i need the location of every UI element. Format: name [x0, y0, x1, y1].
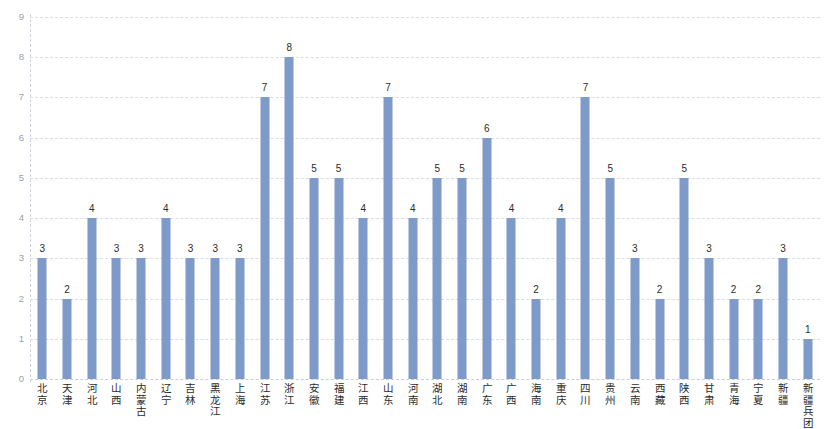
bar[interactable] — [803, 339, 812, 379]
bar-slot: 4 — [499, 17, 524, 379]
bar[interactable] — [433, 178, 442, 379]
y-tick-label-6: 6 — [0, 133, 24, 143]
x-label: 吉林 — [182, 383, 198, 406]
bar-slot: 2 — [721, 17, 746, 379]
y-tick-label-2: 2 — [0, 294, 24, 304]
bar[interactable] — [532, 299, 541, 379]
bar-slot: 5 — [425, 17, 450, 379]
bar-value-label: 3 — [237, 244, 243, 254]
x-label: 湖北 — [429, 383, 445, 406]
x-label: 四川 — [577, 383, 593, 406]
bar[interactable] — [729, 299, 738, 379]
bar-value-label: 2 — [756, 285, 762, 295]
y-tick-label-3: 3 — [0, 254, 24, 264]
bar-value-label: 4 — [89, 204, 95, 214]
bar[interactable] — [680, 178, 689, 379]
bar[interactable] — [606, 178, 615, 379]
bar[interactable] — [161, 218, 170, 379]
bar-value-label: 2 — [657, 285, 663, 295]
bar-slot: 2 — [524, 17, 549, 379]
bar-slot: 3 — [623, 17, 648, 379]
x-label: 西藏 — [652, 383, 668, 406]
bar-value-label: 3 — [632, 244, 638, 254]
bar-slot: 3 — [697, 17, 722, 379]
bar[interactable] — [137, 258, 146, 379]
bar-value-label: 7 — [385, 83, 391, 93]
bar[interactable] — [211, 258, 220, 379]
bar[interactable] — [408, 218, 417, 379]
x-label: 宁夏 — [750, 383, 766, 406]
bar-slot: 4 — [548, 17, 573, 379]
x-label: 甘肃 — [701, 383, 717, 406]
x-label: 广西 — [503, 383, 519, 406]
bar-slot: 3 — [104, 17, 129, 379]
bar-value-label: 5 — [681, 164, 687, 174]
bar-value-label: 1 — [805, 325, 811, 335]
bar-slot: 4 — [351, 17, 376, 379]
x-label: 内蒙古 — [133, 383, 149, 418]
bar-value-label: 3 — [40, 244, 46, 254]
bar-value-label: 4 — [509, 204, 515, 214]
y-tick-label-8: 8 — [0, 52, 24, 62]
bar-value-label: 5 — [459, 164, 465, 174]
bar[interactable] — [482, 138, 491, 379]
bar-slot: 5 — [302, 17, 327, 379]
bar-value-label: 3 — [114, 244, 120, 254]
bar-value-label: 3 — [212, 244, 218, 254]
bar[interactable] — [235, 258, 244, 379]
bar-value-label: 7 — [583, 83, 589, 93]
bar[interactable] — [630, 258, 639, 379]
x-label: 新疆兵团 — [800, 383, 816, 429]
y-tick-label-1: 1 — [0, 334, 24, 344]
x-label: 天津 — [59, 383, 75, 406]
gridline-0 — [30, 379, 820, 380]
bar-slot: 3 — [228, 17, 253, 379]
bar-slot: 5 — [450, 17, 475, 379]
x-label: 广东 — [479, 383, 495, 406]
bar[interactable] — [260, 97, 269, 379]
bar-slot: 7 — [376, 17, 401, 379]
x-label: 山东 — [380, 383, 396, 406]
bar-value-label: 4 — [410, 204, 416, 214]
bar-value-label: 3 — [780, 244, 786, 254]
bar-slot: 3 — [30, 17, 55, 379]
x-label: 青海 — [726, 383, 742, 406]
bar-slot: 4 — [400, 17, 425, 379]
bar[interactable] — [754, 299, 763, 379]
x-label: 上海 — [232, 383, 248, 406]
x-label: 辽宁 — [158, 383, 174, 406]
bar[interactable] — [778, 258, 787, 379]
x-axis-category-labels: 北京天津河北山西内蒙古辽宁吉林黑龙江上海江苏浙江安徽福建江西山东河南湖北湖南广东… — [30, 383, 820, 429]
bar[interactable] — [359, 218, 368, 379]
bar-slot: 1 — [795, 17, 820, 379]
x-label: 陕西 — [676, 383, 692, 406]
bar-value-label: 5 — [311, 164, 317, 174]
bar[interactable] — [655, 299, 664, 379]
x-label: 海南 — [528, 383, 544, 406]
bar[interactable] — [334, 178, 343, 379]
bar-slot: 3 — [203, 17, 228, 379]
x-label: 湖南 — [454, 383, 470, 406]
bar[interactable] — [507, 218, 516, 379]
x-label: 重庆 — [553, 383, 569, 406]
bar[interactable] — [309, 178, 318, 379]
y-tick-label-4: 4 — [0, 213, 24, 223]
bar[interactable] — [581, 97, 590, 379]
bar-value-label: 5 — [336, 164, 342, 174]
bar[interactable] — [87, 218, 96, 379]
bar[interactable] — [186, 258, 195, 379]
bar[interactable] — [383, 97, 392, 379]
bar-value-label: 8 — [286, 43, 292, 53]
bar[interactable] — [556, 218, 565, 379]
x-label: 河南 — [405, 383, 421, 406]
y-tick-label-5: 5 — [0, 173, 24, 183]
bar[interactable] — [285, 57, 294, 379]
bar[interactable] — [63, 299, 72, 379]
bar[interactable] — [704, 258, 713, 379]
bar[interactable] — [38, 258, 47, 379]
y-tick-label-9: 9 — [0, 12, 24, 22]
bar[interactable] — [112, 258, 121, 379]
x-label: 贵州 — [602, 383, 618, 406]
bar[interactable] — [458, 178, 467, 379]
x-label: 江西 — [355, 383, 371, 406]
